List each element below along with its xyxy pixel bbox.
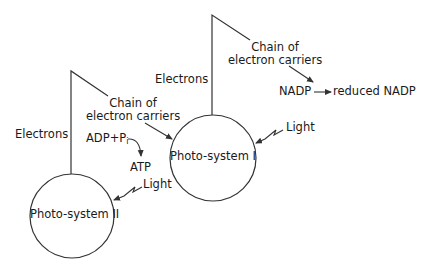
chain-left-label: Chain of electron carriers xyxy=(83,97,183,123)
electrons-left-label: Electrons xyxy=(15,128,68,141)
light-ps2-zigzag-icon xyxy=(114,187,142,200)
chain2-to-nadp-arrow xyxy=(289,66,313,82)
atp-label: ATP xyxy=(130,161,151,174)
light-ps2-label: Light xyxy=(143,178,172,191)
ps2-label: Photo-system II xyxy=(30,208,114,221)
z-scheme-diagram: Electrons Electrons Chain of electron ca… xyxy=(0,0,429,278)
adp-subscript: i xyxy=(126,137,128,146)
chain-left-line2: electron carriers xyxy=(83,110,183,123)
adp-text: ADP+P xyxy=(86,131,126,145)
electrons-right-label: Electrons xyxy=(155,73,208,86)
light-ps1-label: Light xyxy=(286,121,315,134)
chain-right-label: Chain of electron carriers xyxy=(225,41,325,67)
light-ps1-zigzag-icon xyxy=(256,130,283,143)
reduced-nadp-label: reduced NADP xyxy=(333,85,416,98)
nadp-label: NADP xyxy=(279,85,311,98)
chain-right-line2: electron carriers xyxy=(225,54,325,67)
adp-to-atp-arrow xyxy=(128,139,141,156)
ps1-label: Photo-system I xyxy=(170,150,256,163)
adp-pi-label: ADP+Pi xyxy=(86,132,128,148)
chain1-to-ps1-arrow xyxy=(145,123,172,139)
